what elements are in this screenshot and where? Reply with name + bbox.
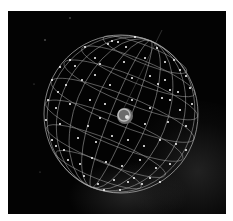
celestial-sphere — [8, 11, 226, 214]
axis-line — [121, 30, 162, 114]
stars — [33, 17, 193, 191]
space-image — [8, 11, 226, 214]
